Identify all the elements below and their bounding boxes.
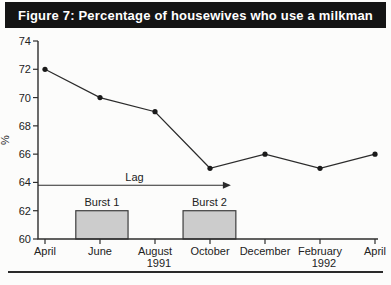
- y-tick-label: 64: [19, 176, 31, 188]
- data-point: [152, 109, 157, 114]
- y-tick-label: 62: [19, 205, 31, 217]
- y-tick-label: 72: [19, 63, 31, 75]
- data-point: [262, 152, 267, 157]
- milkman-usage-chart: Burst 1Burst 26062646668707274%AprilJune…: [0, 0, 391, 285]
- data-point: [207, 166, 212, 171]
- burst-bar-2: [183, 211, 236, 239]
- y-axis-label: %: [0, 135, 11, 145]
- x-year-label: 1992: [312, 257, 336, 269]
- y-tick-label: 70: [19, 92, 31, 104]
- y-tick-label: 66: [19, 148, 31, 160]
- data-point: [97, 95, 102, 100]
- data-point: [42, 67, 47, 72]
- trend-line: [45, 69, 375, 168]
- axes: [38, 41, 378, 239]
- burst-bar-label-2: Burst 2: [192, 196, 227, 208]
- x-tick-label: April: [34, 245, 56, 257]
- burst-bar-label-1: Burst 1: [84, 196, 119, 208]
- x-tick-label: April: [364, 245, 386, 257]
- x-year-label: 1991: [147, 257, 171, 269]
- y-tick-label: 68: [19, 120, 31, 132]
- y-tick-label: 74: [19, 35, 31, 47]
- x-tick-label: June: [88, 245, 112, 257]
- x-tick-label: October: [190, 245, 229, 257]
- figure-page: Figure 7: Percentage of housewives who u…: [0, 0, 391, 285]
- lag-arrow-head: [223, 182, 231, 189]
- lag-arrow-label: Lag: [125, 171, 143, 183]
- x-tick-label: December: [240, 245, 291, 257]
- x-tick-label: August: [138, 245, 172, 257]
- data-point: [317, 166, 322, 171]
- y-tick-label: 60: [19, 233, 31, 245]
- bottom-divider: [8, 271, 383, 273]
- burst-bar-1: [76, 211, 128, 239]
- x-tick-label: February: [298, 245, 343, 257]
- data-point: [372, 152, 377, 157]
